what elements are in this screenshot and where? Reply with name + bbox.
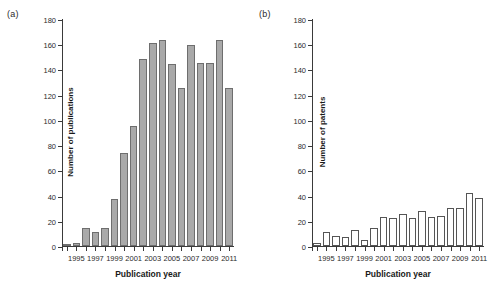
x-tick-label: 2011 [471, 254, 487, 263]
x-tick-label: 2011 [221, 254, 237, 263]
x-tick-mark [412, 247, 413, 251]
y-tick-mark [308, 197, 312, 198]
x-tick-mark [345, 247, 346, 251]
bar-2011 [475, 198, 483, 246]
bar-2003 [399, 214, 407, 246]
x-tick-mark [312, 247, 313, 251]
y-tick-label: 60 [298, 167, 306, 176]
y-tick-label: 60 [48, 167, 56, 176]
x-tick-label: 2009 [452, 254, 469, 263]
x-tick-mark [105, 247, 106, 251]
y-tick-label: 180 [293, 16, 306, 25]
y-tick-mark [58, 70, 62, 71]
bar-2011 [225, 88, 233, 246]
bar-2003 [149, 43, 157, 246]
y-tick-label: 160 [43, 41, 56, 50]
bar-2005 [168, 64, 176, 246]
bar-2005 [418, 211, 426, 246]
x-tick-mark [365, 247, 366, 251]
y-tick-label: 40 [298, 192, 306, 201]
x-tick-mark [336, 247, 337, 251]
x-tick-mark [229, 247, 230, 251]
y-tick-label: 100 [43, 116, 56, 125]
bar-2009 [206, 63, 214, 246]
y-tick-label: 0 [52, 243, 56, 252]
x-tick-label: 1995 [318, 254, 335, 263]
figure-root: (a) Number of publications Publication y… [0, 0, 497, 290]
y-tick-mark [58, 20, 62, 21]
x-tick-label: 1999 [356, 254, 373, 263]
bar-2007 [187, 45, 195, 246]
bar-2009 [456, 208, 464, 246]
y-tick-mark [58, 96, 62, 97]
bar-2004 [159, 40, 167, 246]
bar-1994 [63, 244, 71, 246]
x-axis-label: Publication year [312, 269, 484, 279]
x-tick-label: 1997 [87, 254, 104, 263]
x-tick-mark [124, 247, 125, 251]
y-tick-mark [308, 121, 312, 122]
x-tick-mark [220, 247, 221, 251]
y-tick-mark [58, 171, 62, 172]
y-tick-label: 20 [48, 217, 56, 226]
x-tick-label: 2005 [414, 254, 431, 263]
x-tick-mark [431, 247, 432, 251]
x-tick-mark [172, 247, 173, 251]
bar-2006 [178, 88, 186, 246]
x-tick-mark [355, 247, 356, 251]
bar-1999 [111, 199, 119, 246]
bar-2006 [428, 217, 436, 246]
bar-1995 [323, 232, 331, 246]
bar-1997 [92, 232, 100, 246]
bar-1999 [361, 240, 369, 246]
x-tick-label: 1997 [337, 254, 354, 263]
x-tick-label: 1995 [68, 254, 85, 263]
x-tick-mark [479, 247, 480, 251]
bar-2008 [447, 208, 455, 246]
panel-patents: (b) Number of patents Publication year 0… [249, 0, 497, 290]
bar-2001 [130, 126, 138, 246]
y-tick-label: 140 [293, 66, 306, 75]
bar-2004 [409, 218, 417, 246]
x-axis-label: Publication year [62, 269, 234, 279]
x-tick-mark [317, 247, 318, 251]
x-tick-label: 2003 [394, 254, 411, 263]
y-tick-label: 140 [43, 66, 56, 75]
y-tick-mark [58, 45, 62, 46]
y-tick-mark [308, 20, 312, 21]
y-tick-label: 120 [293, 91, 306, 100]
x-tick-label: 2009 [202, 254, 219, 263]
y-tick-mark [58, 146, 62, 147]
x-tick-label: 1999 [106, 254, 123, 263]
x-tick-mark [153, 247, 154, 251]
x-axis-line [62, 246, 234, 247]
y-tick-mark [308, 96, 312, 97]
y-tick-mark [58, 222, 62, 223]
x-tick-mark [162, 247, 163, 251]
x-axis-line [312, 246, 484, 247]
bar-2010 [466, 193, 474, 246]
y-axis-label: Number of patents [318, 87, 328, 177]
x-tick-mark [181, 247, 182, 251]
x-tick-mark [62, 247, 63, 251]
x-tick-mark [451, 247, 452, 251]
x-tick-mark [470, 247, 471, 251]
y-tick-label: 20 [298, 217, 306, 226]
bar-1998 [351, 230, 359, 246]
bar-1996 [332, 236, 340, 246]
y-tick-mark [308, 222, 312, 223]
y-tick-mark [58, 197, 62, 198]
bar-2007 [437, 216, 445, 246]
y-tick-label: 120 [43, 91, 56, 100]
x-tick-label: 2007 [433, 254, 450, 263]
x-tick-mark [67, 247, 68, 251]
x-tick-mark [422, 247, 423, 251]
y-tick-label: 40 [48, 192, 56, 201]
bar-1995 [73, 243, 81, 246]
x-tick-mark [403, 247, 404, 251]
x-tick-mark [210, 247, 211, 251]
y-tick-label: 80 [48, 142, 56, 151]
panel-tag-b: (b) [259, 9, 271, 19]
bar-2000 [120, 153, 128, 246]
x-tick-mark [374, 247, 375, 251]
